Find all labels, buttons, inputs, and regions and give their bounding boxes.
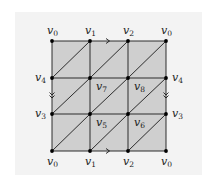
vertex-dot xyxy=(88,112,92,116)
vertex-dot xyxy=(88,76,92,80)
vertex-dot xyxy=(88,149,92,153)
vertex-dot xyxy=(50,149,54,153)
vertex-label-bottom-2: v2 xyxy=(123,155,134,169)
vertex-label-left-v4: v4 xyxy=(35,71,46,85)
vertex-label-right-v3: v3 xyxy=(172,107,183,121)
vertex-dot xyxy=(164,149,168,153)
vertex-dot xyxy=(50,76,54,80)
right-labels: v4 v3 xyxy=(172,71,183,121)
vertex-dot xyxy=(126,149,130,153)
vertex-dot xyxy=(50,112,54,116)
bottom-labels: v0 v1 v2 v0 xyxy=(47,155,172,169)
vertex-label-bottom-0: v0 xyxy=(47,155,58,169)
vertex-dot xyxy=(164,39,168,43)
vertex-dot xyxy=(126,39,130,43)
vertex-label-bottom-3: v0 xyxy=(161,155,172,169)
vertex-dot xyxy=(88,39,92,43)
vertex-dot xyxy=(126,112,130,116)
vertex-dot xyxy=(50,39,54,43)
vertex-dot xyxy=(164,76,168,80)
vertex-label-bottom-1: v1 xyxy=(85,155,96,169)
vertex-label-top-2: v2 xyxy=(123,24,134,38)
vertex-label-top-3: v0 xyxy=(161,24,172,38)
torus-triangulation-diagram: v0 v1 v2 v0 v0 v1 v2 v0 v4 v3 v4 v3 v7 v… xyxy=(0,0,211,187)
vertex-label-top-0: v0 xyxy=(47,24,58,38)
top-labels: v0 v1 v2 v0 xyxy=(47,24,172,38)
vertex-label-top-1: v1 xyxy=(85,24,96,38)
vertex-label-right-v4: v4 xyxy=(172,71,183,85)
vertex-label-left-v3: v3 xyxy=(35,107,46,121)
vertex-dot xyxy=(126,76,130,80)
vertex-dot xyxy=(164,112,168,116)
left-labels: v4 v3 xyxy=(35,71,46,121)
